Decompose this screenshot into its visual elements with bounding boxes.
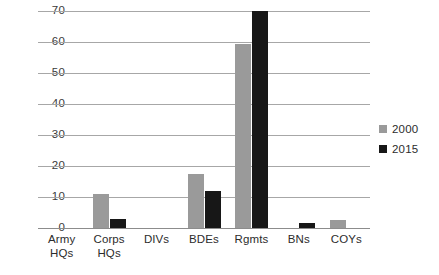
x-label-Rgmts: Rgmts [228,232,275,246]
bars-layer [38,11,370,228]
bar-BDEs-2000 [188,174,204,228]
bar-BDEs-2015 [205,191,221,228]
x-label-line: HQs [38,246,85,260]
x-label-line: Corps [85,232,132,246]
legend-label: 2000 [392,123,418,135]
x-label-line: HQs [85,246,132,260]
chart-legend: 20002015 [379,119,437,159]
x-label-line: Rgmts [228,232,275,246]
x-label-BNs: BNs [275,232,322,246]
bar-Rgmts-2000 [235,44,251,228]
x-axis-labels: ArmyHQsCorpsHQsDIVsBDEsRgmtsBNsCOYs [38,232,370,272]
bar-Rgmts-2015 [252,11,268,228]
x-label-line: BNs [275,232,322,246]
x-label-line: DIVs [133,232,180,246]
x-label-Corps-HQs: CorpsHQs [85,232,132,260]
legend-swatch-icon [379,125,387,133]
bar-Corps-HQs-2015 [110,219,126,228]
bar-chart: 010203040506070 ArmyHQsCorpsHQsDIVsBDEsR… [0,0,439,275]
legend-item-2000[interactable]: 2000 [379,119,437,139]
plot-area [38,11,370,228]
x-label-line: COYs [323,232,370,246]
legend-swatch-icon [379,145,387,153]
x-label-BDEs: BDEs [180,232,227,246]
x-label-line: Army [38,232,85,246]
x-label-Army-HQs: ArmyHQs [38,232,85,260]
x-label-DIVs: DIVs [133,232,180,246]
bar-BNs-2015 [299,223,315,228]
x-label-COYs: COYs [323,232,370,246]
bar-Corps-HQs-2000 [93,194,109,228]
x-label-line: BDEs [180,232,227,246]
legend-label: 2015 [392,143,418,155]
bar-COYs-2000 [330,220,346,228]
legend-item-2015[interactable]: 2015 [379,139,437,159]
